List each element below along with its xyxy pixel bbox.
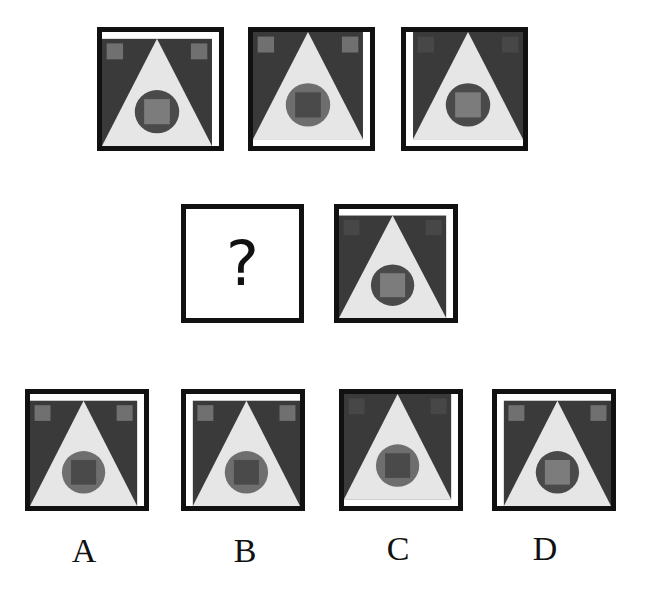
option-b-figure[interactable]	[181, 389, 305, 511]
inner-square	[380, 273, 405, 297]
option-b-label: B	[225, 532, 265, 570]
corner-square-right	[502, 37, 518, 53]
inner-square	[144, 99, 170, 124]
option-a-label: A	[64, 532, 104, 570]
corner-square-left	[349, 398, 365, 414]
corner-square-right	[590, 405, 606, 421]
option-a-figure[interactable]	[25, 389, 149, 511]
corner-square-right	[426, 220, 442, 235]
option-d-figure[interactable]	[492, 389, 616, 511]
corner-square-left	[344, 220, 360, 235]
unknown-figure: ?	[181, 204, 304, 323]
corner-square-left	[197, 405, 213, 421]
corner-square-right	[117, 405, 133, 421]
question-mark: ?	[186, 209, 299, 318]
figure-5	[334, 204, 458, 323]
figure-1	[97, 27, 224, 151]
option-c-figure[interactable]	[339, 389, 463, 511]
option-c-label: C	[378, 530, 418, 568]
corner-square-right	[342, 37, 358, 53]
inner-square	[385, 453, 410, 478]
figure-3	[401, 27, 528, 151]
corner-square-left	[508, 405, 524, 421]
corner-square-left	[258, 37, 274, 53]
inner-square	[234, 460, 259, 485]
inner-square	[295, 92, 321, 117]
inner-square	[455, 92, 481, 117]
corner-square-right	[431, 398, 447, 414]
option-d-label: D	[525, 530, 565, 568]
inner-square	[71, 460, 96, 485]
corner-square-right	[279, 405, 295, 421]
corner-square-right	[191, 43, 207, 59]
corner-square-left	[35, 405, 51, 421]
corner-square-left	[107, 43, 123, 59]
corner-square-left	[418, 37, 434, 53]
figure-2	[248, 27, 375, 151]
inner-square	[545, 460, 570, 485]
